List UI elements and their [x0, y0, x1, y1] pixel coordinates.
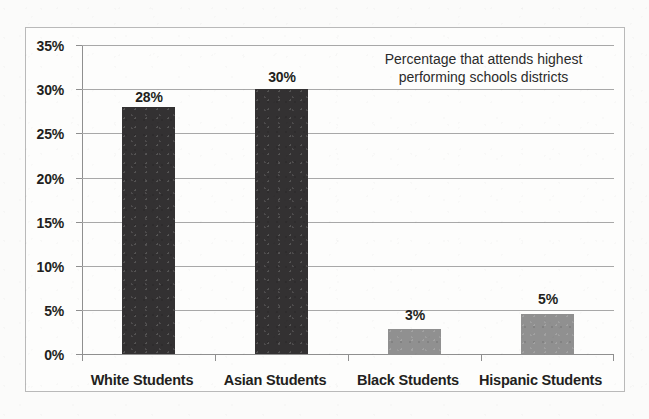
y-axis-label-0: 0%: [20, 347, 64, 363]
plot-area: 28% 30% 3% 5%: [82, 45, 614, 354]
gridline-35: [82, 45, 614, 46]
y-tick-25: [76, 133, 82, 134]
bar-value-white-students: 28%: [109, 89, 189, 105]
y-axis-label-35: 35%: [20, 38, 64, 54]
x-tick-3: [481, 354, 482, 361]
y-axis-label-30: 30%: [20, 82, 64, 98]
bar-value-black-students: 3%: [375, 307, 455, 323]
bar-white-students[interactable]: [122, 107, 175, 354]
y-axis-label-15: 15%: [20, 215, 64, 231]
bar-value-asian-students: 30%: [242, 69, 322, 85]
y-tick-5: [76, 310, 82, 311]
bar-value-hispanic-students: 5%: [508, 291, 588, 307]
y-axis-label-5: 5%: [20, 303, 64, 319]
y-tick-30: [76, 89, 82, 90]
bar-hispanic-students[interactable]: [521, 314, 574, 354]
x-axis-label-white-students: White Students: [68, 372, 216, 388]
y-axis-line: [82, 45, 83, 354]
y-axis-label-25: 25%: [20, 126, 64, 142]
y-tick-20: [76, 178, 82, 179]
x-tick-0: [82, 354, 83, 361]
x-tick-4: [613, 354, 614, 361]
bar-asian-students[interactable]: [255, 89, 308, 354]
y-axis-label-10: 10%: [20, 259, 64, 275]
x-axis-label-asian-students: Asian Students: [201, 372, 349, 388]
y-tick-35: [76, 45, 82, 46]
y-tick-10: [76, 266, 82, 267]
x-tick-2: [348, 354, 349, 361]
chart-frame: 35% 30% 25% 20% 15% 10% 5% 0%: [25, 27, 625, 392]
x-tick-1: [215, 354, 216, 361]
bar-black-students[interactable]: [388, 329, 441, 354]
x-axis-label-black-students: Black Students: [334, 372, 482, 388]
y-tick-15: [76, 222, 82, 223]
x-axis-label-hispanic-students: Hispanic Students: [463, 372, 618, 388]
chart-annotation: Percentage that attends highest performi…: [356, 50, 611, 87]
y-axis-label-20: 20%: [20, 171, 64, 187]
